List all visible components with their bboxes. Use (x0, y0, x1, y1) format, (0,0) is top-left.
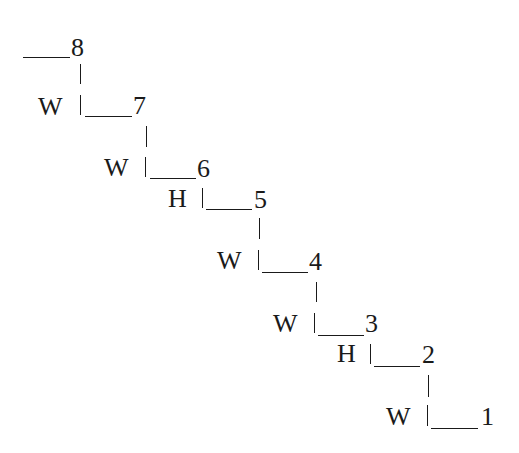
step-7-riser-label: W (104, 155, 129, 181)
step-8-riser-lower (80, 95, 81, 115)
step-6-number: 6 (197, 156, 210, 182)
step-8-riser-upper (80, 64, 81, 84)
step-3-riser (370, 344, 371, 364)
step-6-riser (202, 188, 203, 208)
step-2-riser-lower (427, 405, 428, 426)
step-7-tread (85, 116, 132, 117)
step-2-number: 2 (422, 342, 435, 368)
step-8-riser-label: W (38, 94, 63, 120)
step-6-tread (150, 178, 196, 179)
step-2-riser-label: W (386, 404, 411, 430)
step-7-riser-upper (146, 126, 147, 147)
step-2-riser-upper (428, 375, 429, 397)
step-8-tread (23, 57, 70, 58)
step-7-riser-lower (145, 157, 146, 177)
step-5-riser-lower (258, 250, 259, 270)
step-5-riser-label: W (217, 248, 242, 274)
step-4-number: 4 (309, 249, 322, 275)
step-1-tread (431, 428, 478, 429)
step-4-riser-label: W (273, 311, 298, 337)
step-5-riser-upper (259, 218, 260, 239)
step-6-riser-label: H (168, 186, 187, 212)
step-5-number: 5 (254, 187, 267, 213)
step-8-number: 8 (71, 35, 84, 61)
step-2-tread (374, 366, 420, 367)
step-3-number: 3 (365, 311, 378, 337)
step-3-tread (318, 335, 364, 336)
step-1-number: 1 (481, 404, 494, 430)
step-3-riser-label: H (337, 341, 356, 367)
step-5-tread (206, 209, 252, 210)
step-4-tread (262, 272, 308, 273)
step-4-riser-lower (314, 313, 315, 333)
step-4-riser-upper (316, 282, 317, 302)
step-7-number: 7 (133, 93, 146, 119)
staircase-diagram: 8 W 7 W 6 H 5 W 4 W 3 H 2 W 1 (0, 0, 519, 453)
